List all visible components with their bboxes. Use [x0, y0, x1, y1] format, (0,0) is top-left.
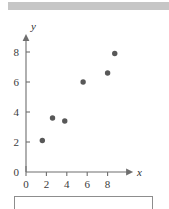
scatter-plot: 0246802468 xy [0, 10, 169, 196]
ticks-group [26, 52, 108, 176]
x-tick-label: 6 [84, 178, 90, 190]
x-axis-label: x [136, 166, 142, 178]
data-point [80, 79, 85, 84]
x-axis-arrow-icon [126, 169, 133, 176]
data-point [62, 118, 67, 123]
x-tick-label: 2 [44, 178, 50, 190]
tick-labels-group: 0246802468 [14, 46, 111, 190]
data-points-group [40, 51, 118, 143]
axis-names-group: xy [30, 20, 142, 178]
x-tick-label: 4 [64, 178, 70, 190]
y-tick-label: 6 [14, 76, 20, 88]
y-tick-label: 2 [14, 136, 20, 148]
plot-svg: 0246802468 xy [0, 10, 169, 196]
x-tick-label: 8 [105, 178, 111, 190]
y-axis-arrow-icon [23, 34, 30, 41]
y-axis-label: y [30, 20, 36, 32]
caption-box [14, 196, 153, 209]
chart-page: 0246802468 xy [0, 0, 169, 209]
header-band [8, 2, 169, 10]
data-point [40, 138, 45, 143]
data-point [50, 115, 55, 120]
y-tick-label: 8 [14, 46, 20, 58]
x-tick-label: 0 [23, 178, 29, 190]
y-tick-label: 4 [14, 106, 20, 118]
data-point [112, 51, 117, 56]
data-point [105, 70, 110, 75]
y-tick-label: 0 [14, 166, 20, 178]
